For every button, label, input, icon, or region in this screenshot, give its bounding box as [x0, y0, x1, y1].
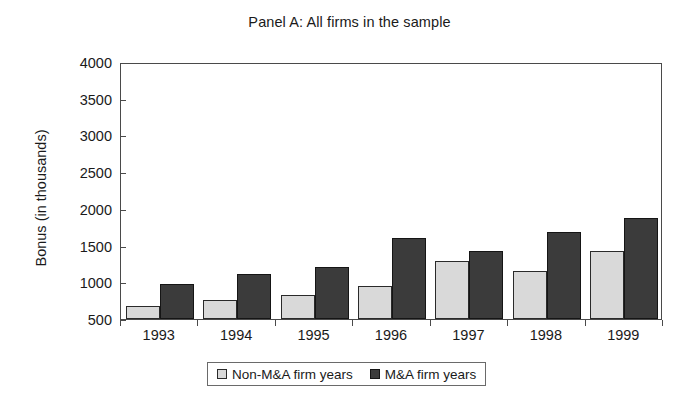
y-tick-label: 1000 — [58, 275, 112, 291]
bar-1999-non-ma — [590, 251, 624, 319]
legend-entry-ma: M&A firm years — [370, 367, 477, 382]
chart-legend: Non-M&A firm yearsM&A firm years — [207, 362, 486, 386]
y-tick-mark — [120, 320, 126, 321]
x-tick-mark — [430, 320, 431, 326]
y-tick-mark — [120, 100, 126, 101]
y-tick-mark — [120, 283, 126, 284]
legend-entry-non-ma: Non-M&A firm years — [217, 367, 353, 382]
y-tick-label: 1500 — [58, 239, 112, 255]
y-tick-mark — [120, 63, 126, 64]
x-tick-label-1998: 1998 — [530, 327, 562, 343]
x-axis-tick-labels: 1993199419951996199719981999 — [120, 327, 662, 351]
x-tick-mark — [275, 320, 276, 326]
y-tick-label: 4000 — [58, 55, 112, 71]
bar-1997-ma — [469, 251, 503, 319]
bar-1999-ma — [624, 218, 658, 319]
bar-1994-ma — [237, 274, 271, 319]
y-tick-mark — [120, 210, 126, 211]
x-tick-mark — [197, 320, 198, 326]
legend-label: M&A firm years — [385, 367, 477, 382]
x-axis-tick-marks — [120, 320, 662, 327]
y-axis-tick-labels: 4000350030002500200015001000500 — [54, 63, 112, 320]
y-tick-label: 2000 — [58, 202, 112, 218]
y-tick-label: 500 — [58, 312, 112, 328]
x-tick-label-1996: 1996 — [375, 327, 407, 343]
y-tick-mark — [120, 136, 126, 137]
x-tick-mark — [585, 320, 586, 326]
bar-1996-ma — [392, 238, 426, 320]
bar-1997-non-ma — [435, 261, 469, 319]
x-tick-mark — [352, 320, 353, 326]
x-tick-label-1997: 1997 — [452, 327, 484, 343]
bar-1993-non-ma — [126, 306, 160, 319]
x-tick-label-1995: 1995 — [297, 327, 329, 343]
plot-area — [120, 63, 662, 320]
legend-swatch-icon — [370, 369, 380, 379]
y-tick-mark — [120, 173, 126, 174]
chart-figure: Panel A: All firms in the sample Bonus (… — [0, 0, 699, 411]
bar-1996-non-ma — [358, 286, 392, 319]
legend-label: Non-M&A firm years — [232, 367, 353, 382]
chart-title: Panel A: All firms in the sample — [0, 14, 699, 30]
x-tick-label-1993: 1993 — [143, 327, 175, 343]
y-tick-label: 2500 — [58, 165, 112, 181]
x-tick-label-1999: 1999 — [607, 327, 639, 343]
legend-swatch-icon — [217, 369, 227, 379]
bar-1995-ma — [315, 267, 349, 319]
bar-1998-non-ma — [513, 271, 547, 319]
x-tick-mark — [507, 320, 508, 326]
bar-1994-non-ma — [203, 300, 237, 319]
bar-1995-non-ma — [281, 295, 315, 319]
bars-container — [121, 64, 661, 319]
x-tick-label-1994: 1994 — [220, 327, 252, 343]
y-tick-label: 3500 — [58, 92, 112, 108]
x-tick-mark — [662, 320, 663, 326]
y-tick-mark — [120, 247, 126, 248]
bar-1993-ma — [160, 284, 194, 319]
y-tick-label: 3000 — [58, 128, 112, 144]
bar-1998-ma — [547, 232, 581, 319]
y-axis-title: Bonus (in thousands) — [33, 83, 49, 313]
